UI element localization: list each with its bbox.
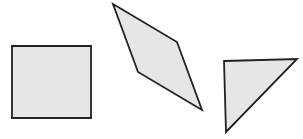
triangle-shape — [224, 59, 297, 132]
shapes-diagram — [0, 0, 303, 139]
square-shape — [12, 46, 91, 118]
rhombus-shape — [113, 4, 202, 110]
